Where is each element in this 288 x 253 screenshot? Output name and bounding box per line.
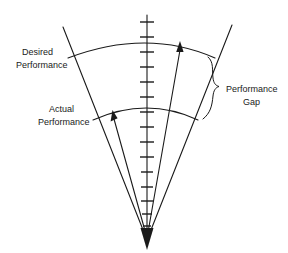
desired-performance-line2: Performance: [16, 60, 68, 70]
gap-brace-icon: [203, 57, 219, 119]
right-arrow-shaft: [147, 50, 180, 238]
label-desired-performance: Desired Performance: [16, 47, 68, 70]
actual-performance-line1: Actual: [49, 104, 74, 114]
wedge-left-edge: [63, 27, 147, 240]
label-performance-gap: Performance Gap: [226, 84, 278, 107]
inner-arc-actual-performance: [93, 108, 198, 120]
actual-performance-line2: Performance: [38, 117, 90, 127]
performance-gap-diagram: Desired Performance Actual Performance P…: [0, 0, 288, 253]
desired-performance-line1: Desired: [22, 47, 53, 57]
performance-gap-line1: Performance: [226, 84, 278, 94]
apex-arrowhead: [141, 228, 154, 250]
left-arrow-shaft: [114, 119, 147, 238]
right-arrow: [147, 41, 184, 238]
label-actual-performance: Actual Performance: [38, 104, 90, 127]
left-arrow: [111, 110, 147, 238]
wedge-right-edge: [147, 25, 232, 240]
outer-arc-desired-performance: [68, 43, 215, 58]
performance-gap-line2: Gap: [243, 97, 260, 107]
gap-brace-path: [203, 57, 219, 119]
center-tick-axis: [140, 15, 154, 238]
diagram-canvas: Desired Performance Actual Performance P…: [0, 0, 288, 253]
apex-arrow-head: [141, 228, 154, 250]
